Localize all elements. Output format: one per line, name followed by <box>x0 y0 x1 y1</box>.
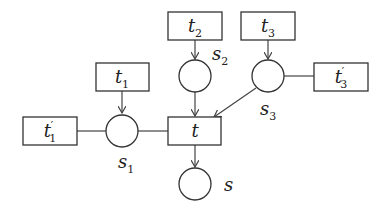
transition-t2: t2 <box>168 12 222 40</box>
transition-t1-prime: t′1 <box>23 117 77 145</box>
label-s: s <box>224 174 233 195</box>
place-s <box>179 168 211 200</box>
place-s2 <box>179 60 211 92</box>
label-s3: s3 <box>260 98 276 123</box>
place-s1 <box>106 115 138 147</box>
transition-t1: t1 <box>96 63 149 91</box>
svg-text:t: t <box>191 120 199 141</box>
petri-net-diagram: t′1 t1 t t2 t3 t′3 s1 s2 s3 s <box>0 0 392 216</box>
place-s3 <box>252 60 284 92</box>
label-s1: s1 <box>118 151 134 176</box>
edge-s3-t <box>214 88 256 117</box>
transition-t3: t3 <box>241 12 295 40</box>
transition-t3-prime: t′3 <box>314 63 368 91</box>
label-s2: s2 <box>212 43 228 68</box>
transition-t: t <box>168 117 221 145</box>
